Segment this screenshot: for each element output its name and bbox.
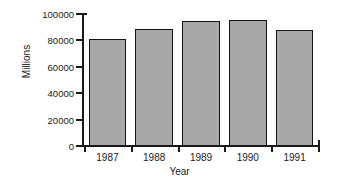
y-tick-0 <box>76 145 82 147</box>
bar-1989 <box>182 21 219 146</box>
x-tick-4 <box>271 147 273 152</box>
y-axis-line <box>82 13 84 147</box>
y-axis-top-cap <box>82 13 87 15</box>
y-tick-5 <box>76 13 82 15</box>
y-tick-label-3: 60000 <box>0 61 74 72</box>
x-tick-label-1990: 1990 <box>237 152 259 163</box>
bar-1988 <box>135 29 172 146</box>
y-tick-3 <box>76 66 82 68</box>
bar-1990 <box>229 20 266 146</box>
y-tick-label-5: 100000 <box>0 9 74 20</box>
x-tick-label-1989: 1989 <box>190 152 212 163</box>
bar-1991 <box>276 30 313 146</box>
x-axis-title: Year <box>0 166 359 177</box>
bar-chart: Millions 020000400006000080000100000 198… <box>0 0 359 189</box>
x-tick-label-1991: 1991 <box>283 152 305 163</box>
x-tick-3 <box>224 147 226 152</box>
y-tick-label-1: 20000 <box>0 114 74 125</box>
x-tick-label-1987: 1987 <box>96 152 118 163</box>
y-tick-1 <box>76 119 82 121</box>
y-tick-label-0: 0 <box>0 141 74 152</box>
x-axis-right-cap <box>318 140 320 147</box>
x-tick-end <box>318 147 320 152</box>
bar-1987 <box>89 39 126 146</box>
x-tick-1 <box>131 147 133 152</box>
x-tick-0 <box>84 147 86 152</box>
y-tick-label-4: 80000 <box>0 35 74 46</box>
y-tick-label-2: 40000 <box>0 88 74 99</box>
y-tick-4 <box>76 39 82 41</box>
x-tick-2 <box>178 147 180 152</box>
x-tick-label-1988: 1988 <box>143 152 165 163</box>
y-tick-2 <box>76 92 82 94</box>
